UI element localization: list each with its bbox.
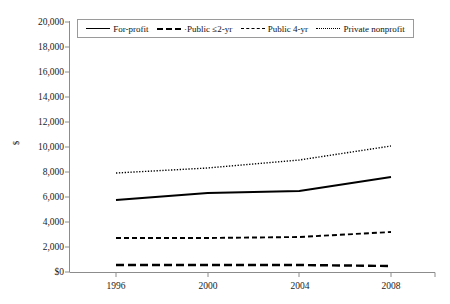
legend-item-public-4yr: Public 4-yr (241, 24, 308, 34)
legend-item-public-2yr: ·Public ≤2-yr (157, 24, 232, 34)
x-axis-ticks (116, 273, 435, 278)
series-line (116, 146, 391, 173)
series-line (116, 265, 391, 266)
legend-item-for-profit: For-profit (86, 24, 148, 34)
chart-legend: For-profit ·Public ≤2-yr Public 4-yr Pri… (77, 19, 414, 38)
series-layer (116, 146, 391, 266)
legend-label: ·Public ≤2-yr (184, 24, 232, 34)
series-line (116, 177, 391, 200)
legend-item-private-nonprofit: Private nonprofit (316, 24, 404, 34)
legend-line-dash-icon (241, 25, 265, 33)
series-line (116, 232, 391, 238)
plot-area (0, 0, 450, 304)
y-axis-ticks (65, 22, 70, 272)
legend-label: Private nonprofit (343, 24, 404, 34)
legend-line-longdash-icon (157, 25, 181, 33)
legend-line-dotted-icon (316, 25, 340, 33)
legend-line-solid-icon (86, 25, 110, 33)
line-chart: $ 20,000 18,000 16,000 14,000 12,000 10,… (0, 0, 450, 304)
legend-label: For-profit (113, 24, 148, 34)
legend-label: Public 4-yr (268, 24, 308, 34)
